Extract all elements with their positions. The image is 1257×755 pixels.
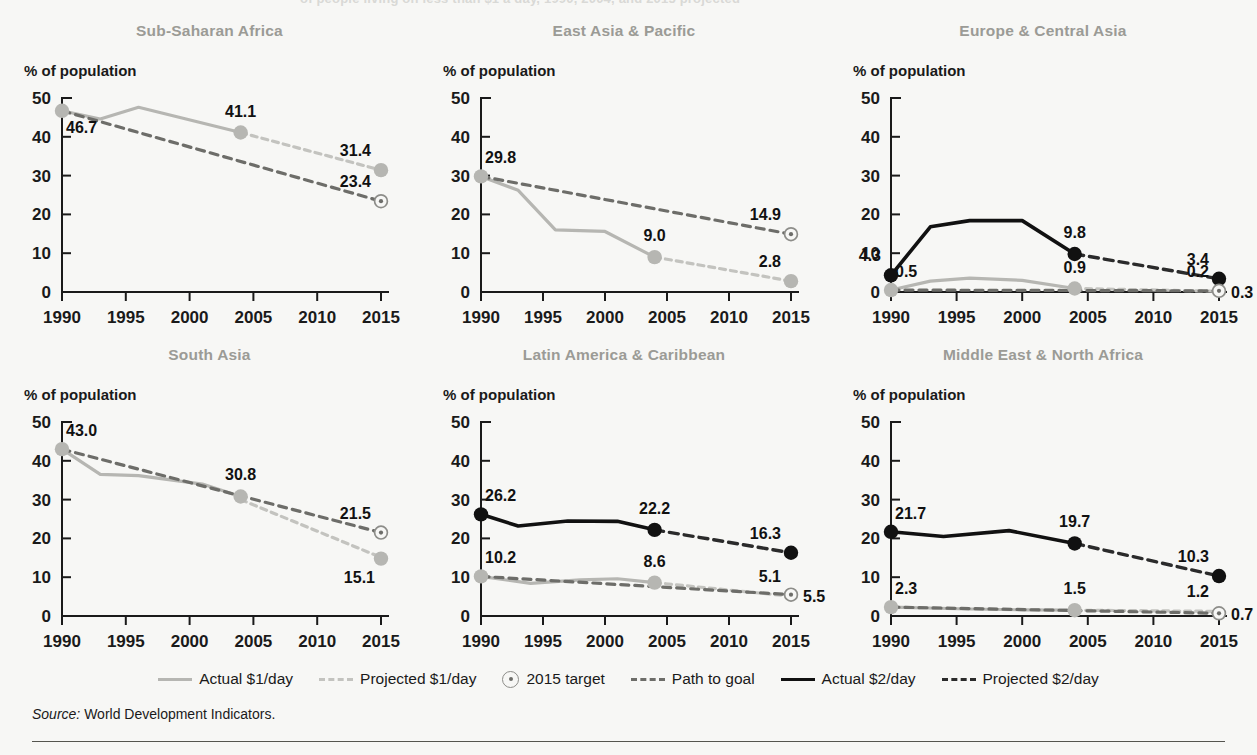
x-tick-label: 2015 [772, 632, 810, 651]
y-tick-label: 10 [451, 568, 470, 587]
chart-grid: Sub-Saharan Africa% of population0102030… [0, 14, 1257, 662]
series-line [62, 111, 381, 201]
data-point-label: 16.3 [750, 525, 781, 542]
chart-panel: Middle East & North Africa% of populatio… [829, 338, 1257, 662]
axis-lines [62, 98, 389, 292]
data-point-label: 1.5 [1064, 580, 1086, 597]
chart-plot: 0102030405019901995200020052010201543.03… [0, 338, 419, 662]
y-tick-label: 20 [451, 205, 470, 224]
legend-swatch-icon [942, 673, 976, 685]
series-line [481, 176, 791, 234]
data-point-label: 29.8 [485, 149, 516, 166]
legend-item[interactable]: Projected $2/day [942, 670, 1099, 688]
data-point-marker [884, 525, 898, 539]
legend-swatch-icon [319, 673, 353, 685]
target-marker [375, 195, 388, 208]
legend-label: Actual $2/day [822, 670, 916, 688]
y-tick-label: 50 [861, 413, 880, 432]
series-line [891, 531, 1075, 544]
y-tick-label: 50 [451, 89, 470, 108]
x-tick-label: 1995 [938, 308, 976, 327]
data-point-label: 0.9 [1064, 259, 1086, 276]
y-tick-label: 40 [451, 452, 470, 471]
legend-item[interactable]: 2015 target [502, 670, 604, 688]
data-point-marker [1067, 603, 1081, 617]
data-point-marker [1067, 281, 1081, 295]
data-point-label: 43.0 [66, 422, 97, 439]
x-tick-label: 2015 [772, 308, 810, 327]
data-point-marker [374, 551, 388, 565]
target-marker [785, 588, 798, 601]
x-tick-label: 1990 [872, 632, 910, 651]
data-point-marker [233, 125, 247, 139]
chart-legend: Actual $1/dayProjected $1/day2015 target… [0, 662, 1257, 696]
x-tick-label: 2000 [171, 632, 209, 651]
y-tick-label: 40 [861, 452, 880, 471]
bottom-rule [32, 741, 1225, 742]
data-point-label: 5.5 [803, 588, 825, 605]
x-tick-label: 2005 [234, 632, 272, 651]
data-point-label: 14.9 [750, 206, 781, 223]
data-point-marker [784, 546, 798, 560]
target-marker [375, 526, 388, 539]
chart-plot: 0102030405019901995200020052010201529.89… [419, 14, 829, 338]
y-tick-label: 40 [32, 128, 51, 147]
y-tick-label: 20 [451, 529, 470, 548]
chart-plot: 0102030405019901995200020052010201521.72… [829, 338, 1257, 662]
data-point-marker [55, 442, 69, 456]
target-marker [785, 228, 798, 241]
x-tick-label: 2015 [362, 308, 400, 327]
data-point-label: 0.3 [1231, 284, 1253, 301]
legend-item[interactable]: Path to goal [631, 670, 755, 688]
y-tick-label: 0 [461, 607, 470, 626]
data-point-marker [1212, 569, 1226, 583]
x-tick-label: 2010 [1134, 632, 1172, 651]
data-point-marker [374, 163, 388, 177]
chart-plot: 010203040501990199520002005201020154.30.… [829, 14, 1257, 338]
data-point-label: 41.1 [225, 103, 256, 120]
legend-swatch-icon [781, 673, 815, 685]
axis-lines [481, 98, 799, 292]
x-tick-label: 2015 [362, 632, 400, 651]
x-tick-label: 1995 [107, 632, 145, 651]
x-tick-label: 2005 [648, 632, 686, 651]
data-point-label: 0.5 [895, 263, 917, 280]
x-tick-label: 1995 [524, 308, 562, 327]
legend-swatch-icon [631, 673, 665, 685]
data-point-label: 46.7 [66, 119, 97, 136]
legend-label: Path to goal [672, 670, 755, 688]
x-tick-label: 2000 [171, 308, 209, 327]
y-tick-label: 20 [861, 205, 880, 224]
chart-plot: 0102030405019901995200020052010201546.74… [0, 14, 419, 338]
data-point-label: 19.7 [1059, 513, 1090, 530]
legend-label: Actual $1/day [199, 670, 293, 688]
x-tick-label: 2010 [298, 632, 336, 651]
data-point-label: 15.1 [344, 569, 375, 586]
data-point-label: 2.8 [759, 253, 781, 270]
data-point-label: 31.4 [340, 142, 371, 159]
legend-item[interactable]: Actual $1/day [158, 670, 293, 688]
x-tick-label: 2005 [234, 308, 272, 327]
legend-item[interactable]: Actual $2/day [781, 670, 916, 688]
x-tick-label: 2010 [298, 308, 336, 327]
y-tick-label: 0 [871, 283, 880, 302]
data-point-label: 8.6 [643, 553, 665, 570]
x-tick-label: 2010 [710, 308, 748, 327]
y-tick-label: 30 [32, 491, 51, 510]
legend-label: 2015 target [526, 670, 604, 688]
data-point-label: 0.2 [1187, 263, 1209, 280]
data-point-marker [474, 569, 488, 583]
x-tick-label: 2010 [710, 632, 748, 651]
chart-plot: 0102030405019901995200020052010201526.21… [419, 338, 829, 662]
target-marker [1213, 607, 1226, 620]
legend-item[interactable]: Projected $1/day [319, 670, 476, 688]
y-tick-label: 30 [861, 491, 880, 510]
y-tick-label: 0 [871, 607, 880, 626]
chart-panel: Latin America & Caribbean% of population… [419, 338, 829, 662]
legend-label: Projected $2/day [983, 670, 1099, 688]
y-tick-label: 10 [861, 568, 880, 587]
chart-panel: East Asia & Pacific% of population010203… [419, 14, 829, 338]
target-marker [1213, 284, 1226, 297]
x-tick-label: 2005 [1069, 308, 1107, 327]
clipped-header-text: of people living on less than $1 a day, … [300, 0, 740, 6]
